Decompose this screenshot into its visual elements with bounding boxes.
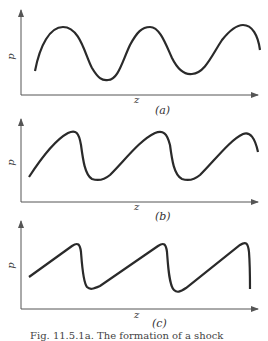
y-axis-label-b: p [5, 159, 16, 165]
x-axis-label-c: z [134, 309, 139, 320]
y-axis-label-c: p [5, 262, 16, 268]
x-axis-label-a: z [134, 94, 139, 105]
figure-caption: Fig. 11.5.1a. The formation of a shock [30, 330, 223, 341]
panel-b [21, 119, 258, 202]
panel-c [21, 221, 258, 309]
y-axis-label-a: p [5, 53, 16, 59]
panel-label-a: (a) [155, 104, 170, 117]
panel-label-b: (b) [155, 210, 171, 223]
wave-curve-b [29, 132, 258, 180]
panel-label-c: (c) [152, 317, 167, 330]
wave-curve-c [29, 243, 250, 292]
panel-a [21, 10, 260, 95]
x-axis-label-b: z [134, 201, 139, 212]
wave-curve-a [35, 25, 260, 80]
